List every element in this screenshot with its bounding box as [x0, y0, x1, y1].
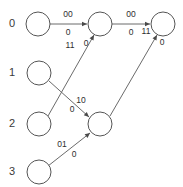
row-label-1: 1	[9, 66, 15, 78]
edge-input-label: 01	[57, 139, 67, 149]
row-label-3: 3	[9, 165, 15, 177]
state-0-start[interactable]	[26, 12, 50, 36]
trellis-diagram: 0 1 2 3 00 0 00 0 11 0	[0, 0, 183, 187]
edge-input-label: 00	[126, 9, 136, 19]
state-3-start[interactable]	[27, 160, 51, 184]
edge-input-label: 10	[76, 95, 86, 105]
state-2-middle[interactable]	[88, 112, 112, 136]
edge-output-label: 0	[66, 27, 71, 37]
state-1-start[interactable]	[27, 61, 51, 85]
state-0-middle[interactable]	[88, 12, 112, 36]
edge-output-label: 0	[70, 104, 75, 114]
edge-input-label: 11	[66, 40, 75, 50]
edge-state3-to-state2-middle: 01 0	[48, 133, 90, 166]
state-0-end[interactable]	[151, 12, 175, 36]
edge-output-label: 0	[160, 37, 165, 47]
edge-state2-middle-to-state0-end: 11 0	[110, 26, 165, 116]
edge-line	[110, 35, 157, 116]
edge-output-label: 0	[84, 38, 89, 48]
arrowhead-icon	[82, 22, 87, 27]
edge-output-label: 0	[72, 149, 77, 159]
row-label-2: 2	[9, 117, 15, 129]
edge-line	[48, 133, 90, 166]
state-2-start[interactable]	[27, 112, 51, 136]
edge-input-label: 00	[63, 9, 73, 19]
edge-state1-to-state2-middle: 10 0	[49, 81, 89, 117]
row-labels-group: 0 1 2 3	[9, 17, 15, 177]
nodes-group	[26, 12, 175, 184]
row-label-0: 0	[9, 17, 15, 29]
edge-input-label: 11	[142, 26, 151, 36]
trellis-canvas: 0 1 2 3 00 0 00 0 11 0	[0, 0, 183, 187]
edge-output-label: 0	[129, 27, 134, 37]
edge-state0-to-state0-middle: 00 0	[50, 9, 87, 37]
